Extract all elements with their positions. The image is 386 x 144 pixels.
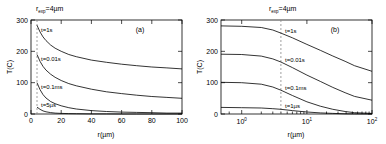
panel-a-ytick-300: 300 (16, 17, 28, 24)
panel-a-xtick-80: 80 (148, 117, 156, 124)
panel-b-y-ticks (221, 20, 372, 114)
panel-a-ytick-0: 0 (24, 111, 28, 118)
panel-b-xtick-1e1: 101 (302, 117, 313, 125)
panel-a-annotation: rexp=4µm (36, 5, 64, 14)
panel-a-curve-label-t1s: t=1s (41, 27, 53, 33)
panel-a-label: (a) (136, 26, 145, 34)
panel-b-ytick-0: 0 (214, 111, 218, 118)
panel-a-ytick-200: 200 (16, 48, 28, 55)
panel-b-label: (b) (331, 26, 340, 34)
panel-b-ylabel: T(C) (196, 60, 204, 74)
panel-b-curve-label-t001s: t=0.01s (285, 57, 305, 63)
panel-a-y-ticks (31, 20, 182, 114)
panel-a-curve-label-t01ms: t=0.1ms (41, 84, 63, 90)
panel-a-xtick-0: 0 (29, 117, 33, 124)
panel-b-curve-label-t1us: t=1µs (285, 103, 300, 109)
panel-b-plot: 0 100 200 300 (193, 0, 386, 144)
panel-a-curve-t1s (37, 25, 182, 69)
panel-b-xtick-1e0: 100 (237, 117, 248, 125)
panel-b: 0 100 200 300 (193, 0, 386, 144)
svg-text:rexp=4µm: rexp=4µm (269, 5, 297, 14)
panel-a-curve-label-t5us: t=5µs (41, 102, 56, 108)
panel-b-ytick-300: 300 (206, 17, 218, 24)
panel-a-annot-rest: =4µm (46, 5, 64, 13)
panel-a-xtick-40: 40 (88, 117, 96, 124)
panel-a-x-ticks (31, 20, 182, 114)
panel-b-xlabel: r(µm) (288, 131, 305, 139)
panel-a-xtick-100: 100 (176, 117, 188, 124)
panel-a-ylabel: T(C) (6, 60, 14, 74)
panel-b-x-ticks (229, 20, 372, 114)
panel-a-curve-label-t001s: t=0.01s (41, 56, 61, 62)
panel-b-ytick-200: 200 (206, 48, 218, 55)
panel-b-ytick-100: 100 (206, 79, 218, 86)
panel-b-frame (221, 20, 372, 114)
panel-b-annot-rest: =4µm (279, 5, 297, 13)
panel-a: 0 100 200 300 0 20 40 60 (0, 0, 193, 144)
panel-b-curve-label-t1s: t=1s (285, 28, 297, 34)
panel-a-plot: 0 100 200 300 0 20 40 60 (0, 0, 193, 144)
panel-a-xlabel: r(µm) (98, 131, 115, 139)
panel-a-frame (31, 20, 182, 114)
figure-container: 0 100 200 300 0 20 40 60 (0, 0, 386, 144)
panel-a-xtick-20: 20 (57, 117, 65, 124)
panel-a-xtick-60: 60 (118, 117, 126, 124)
svg-text:rexp=4µm: rexp=4µm (36, 5, 64, 14)
panel-b-curve-label-t01ms: t=0.1ms (285, 85, 307, 91)
panel-a-ytick-100: 100 (16, 79, 28, 86)
panel-b-xtick-1e2: 102 (367, 117, 378, 125)
panel-b-annotation: rexp=4µm (269, 5, 297, 14)
